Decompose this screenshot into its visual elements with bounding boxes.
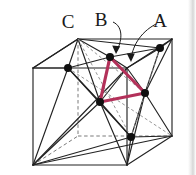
crystal-structure-figure: C B A	[0, 0, 196, 175]
right-edge-scan-artifact	[188, 0, 196, 175]
arrow-a-head	[127, 53, 135, 62]
oct-edge-btl-to-ftl	[33, 39, 78, 68]
label-b: B	[95, 9, 108, 30]
atom-cube-center	[96, 98, 104, 106]
arrow-b-head	[112, 46, 120, 55]
highlight-plane-triangle	[100, 57, 145, 102]
oct-edge-right-face-to-bbr	[145, 93, 172, 136]
oct-edge-left-center-to-fbl	[33, 68, 68, 165]
fcc-cube-diagram: C B A	[0, 0, 196, 175]
atom-top-face-center	[106, 53, 114, 61]
oct-edge-cube-center-to-bottom-center	[100, 102, 131, 137]
oct-edge-right-face-to-fbr	[127, 93, 145, 165]
oct-edge-cube-center-to-fbr	[100, 102, 127, 165]
atom-right-upper	[156, 44, 164, 52]
atom-right-face-center	[141, 89, 149, 97]
oct-edge-fbl-to-bbr	[33, 136, 172, 165]
oct-edge-btl-to-cube-center	[78, 39, 100, 102]
atom-bottom-face-center	[127, 133, 135, 141]
oct-edge-btl-to-left-center	[68, 39, 78, 68]
label-a: A	[153, 10, 167, 31]
atom-left-face-center	[64, 64, 72, 72]
label-c: C	[62, 11, 75, 32]
atoms-group	[64, 44, 164, 141]
